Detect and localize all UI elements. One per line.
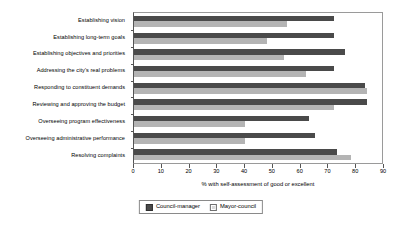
category-label: Addressing the city's real problems <box>0 63 129 80</box>
bar-mayor-council <box>134 71 306 77</box>
legend-item[interactable]: Council-manager <box>146 204 200 211</box>
bar-group <box>134 96 382 113</box>
y-axis-tick <box>131 30 134 31</box>
x-axis-tick-label: 40 <box>241 169 247 175</box>
legend-label: Council-manager <box>156 204 200 210</box>
category-label: Establishing vision <box>0 12 129 29</box>
category-label: Reviewing and approving the budget <box>0 96 129 113</box>
category-label: Overseeing program effectiveness <box>0 113 129 130</box>
bar-group <box>134 130 382 147</box>
bar-group <box>134 146 382 163</box>
bar-mayor-council <box>134 121 245 127</box>
bar-mayor-council <box>134 88 367 94</box>
legend: Council-managerMayor-council <box>139 200 263 214</box>
bar-mayor-council <box>134 155 351 161</box>
y-axis-tick <box>131 114 134 115</box>
bar-groups <box>134 13 382 163</box>
x-axis-tick-label: 50 <box>269 169 275 175</box>
category-label: Responding to constituent demands <box>0 80 129 97</box>
legend-item[interactable]: Mayor-council <box>210 204 256 211</box>
x-axis-tick-label: 30 <box>213 169 219 175</box>
legend-swatch-icon <box>146 204 153 211</box>
y-axis-tick <box>131 97 134 98</box>
y-axis-tick <box>131 131 134 132</box>
category-label: Establishing objectives and priorities <box>0 46 129 63</box>
x-axis-tick-label: 0 <box>131 169 134 175</box>
bar-group <box>134 46 382 63</box>
category-axis-labels: Establishing visionEstablishing long-ter… <box>0 12 129 164</box>
x-axis-tick-label: 90 <box>380 169 386 175</box>
y-axis-tick <box>131 47 134 48</box>
bar-group <box>134 63 382 80</box>
x-axis-label: % with self-assessment of good or excell… <box>133 182 383 188</box>
bar-mayor-council <box>134 138 245 144</box>
y-axis-tick <box>131 81 134 82</box>
legend-label: Mayor-council <box>220 204 256 210</box>
x-axis-tick-label: 20 <box>185 169 191 175</box>
x-axis-tick-label: 10 <box>158 169 164 175</box>
bar-mayor-council <box>134 105 334 111</box>
y-axis-tick <box>131 64 134 65</box>
bar-group <box>134 80 382 97</box>
category-label: Overseeing administrative performance <box>0 130 129 147</box>
category-label: Resolving complaints <box>0 147 129 164</box>
bar-group <box>134 13 382 30</box>
bar-mayor-council <box>134 38 267 44</box>
plot-area <box>133 12 383 164</box>
bar-mayor-council <box>134 55 284 61</box>
x-axis-tick-label: 70 <box>324 169 330 175</box>
bar-chart: Establishing visionEstablishing long-ter… <box>0 0 402 231</box>
x-axis: 0102030405060708090 <box>133 164 383 182</box>
bar-group <box>134 113 382 130</box>
x-axis-tick-label: 80 <box>352 169 358 175</box>
bar-group <box>134 30 382 47</box>
y-axis-tick <box>131 148 134 149</box>
x-axis-tick-label: 60 <box>297 169 303 175</box>
bar-mayor-council <box>134 21 287 27</box>
category-label: Establishing long-term goals <box>0 29 129 46</box>
legend-swatch-icon <box>210 204 217 211</box>
